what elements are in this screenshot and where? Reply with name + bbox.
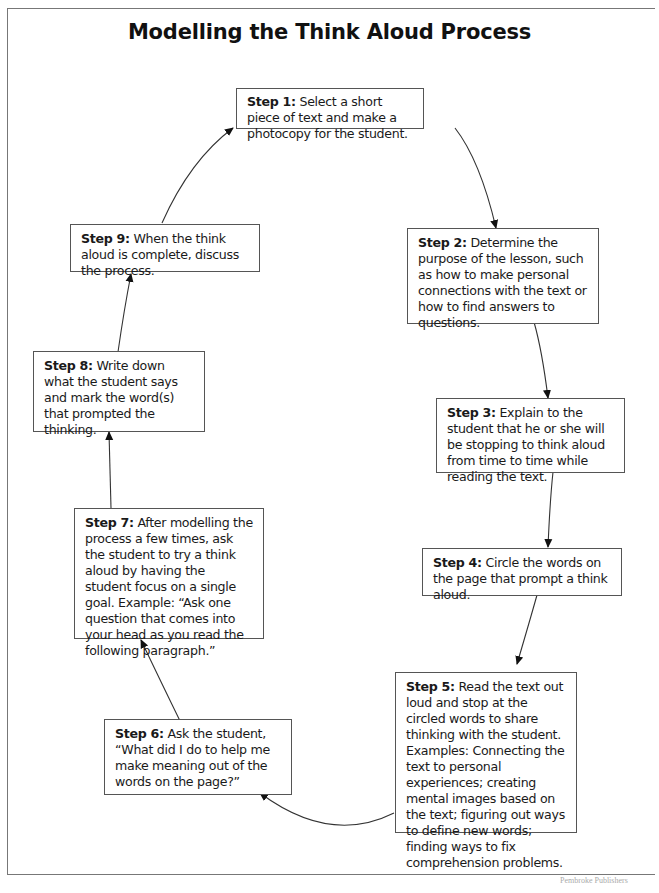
arrow-step9-to-step1 [162, 128, 233, 223]
step-9-box: Step 9: When the think aloud is complete… [70, 224, 260, 272]
arrow-step7-to-step8 [109, 432, 111, 508]
step-2-box: Step 2: Determine the purpose of the les… [407, 228, 599, 324]
footer-text: Pembroke Publishers [560, 876, 628, 885]
step-label: Step 2: [418, 235, 467, 250]
step-8-box: Step 8: Write down what the student says… [33, 351, 205, 432]
step-label: Step 7: [85, 515, 134, 530]
step-text: After modelling the process a few times,… [85, 515, 253, 658]
arrow-step8-to-step9 [118, 274, 131, 352]
step-label: Step 8: [44, 358, 93, 373]
step-label: Step 3: [447, 405, 496, 420]
step-7-box: Step 7: After modelling the process a fe… [74, 508, 264, 639]
step-5-box: Step 5: Read the text out loud and stop … [395, 672, 577, 833]
step-4-box: Step 4: Circle the words on the page tha… [422, 548, 622, 596]
arrow-step4-to-step5 [517, 595, 537, 664]
arrow-step2-to-step3 [534, 322, 548, 398]
step-label: Step 6: [115, 726, 164, 741]
step-label: Step 1: [247, 94, 296, 109]
arrow-step5-to-step6 [260, 793, 394, 825]
step-label: Step 9: [81, 231, 130, 246]
step-label: Step 4: [433, 555, 482, 570]
step-6-box: Step 6: Ask the student, “What did I do … [104, 719, 292, 795]
step-3-box: Step 3: Explain to the student that he o… [436, 398, 625, 473]
step-1-box: Step 1: Select a short piece of text and… [236, 88, 424, 129]
step-label: Step 5: [406, 679, 455, 694]
arrow-step3-to-step4 [548, 472, 553, 547]
arrow-step1-to-step2 [455, 128, 496, 228]
